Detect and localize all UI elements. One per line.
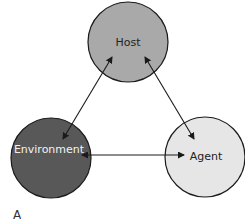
panel-label: A <box>13 208 22 222</box>
node-agent-label: Agent <box>190 150 223 163</box>
node-environment-label: Environment <box>14 143 85 156</box>
node-environment: Environment <box>11 118 91 198</box>
node-agent: Agent <box>165 117 245 197</box>
node-host: Host <box>88 2 168 82</box>
node-host-label: Host <box>115 36 141 49</box>
host-environment-agent-diagram: Host Environment Agent A <box>0 0 245 224</box>
edge-host-agent-arrow <box>145 57 194 139</box>
edge-host-environment-arrow <box>63 57 112 139</box>
